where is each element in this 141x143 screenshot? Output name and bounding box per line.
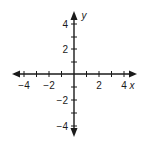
x-tick-label: 4 (121, 80, 127, 91)
y-tick-label: 4 (62, 19, 68, 30)
x-tick-label: 2 (96, 80, 102, 91)
x-axis-label: x (129, 80, 136, 91)
y-tick-label: 2 (62, 44, 68, 55)
y-axis-label: y (81, 10, 88, 21)
y-axis-down-arrow-icon (71, 128, 78, 137)
y-axis-up-arrow-icon (71, 11, 78, 20)
y-tick-label: −4 (57, 121, 69, 132)
x-axis-right-arrow-icon (129, 71, 137, 78)
x-axis-left-arrow-icon (12, 71, 20, 78)
x-tick-label: −4 (18, 80, 30, 91)
coordinate-plane: −4 −2 2 4 x 4 2 −2 −4 y (0, 0, 141, 143)
x-tick-label: −2 (43, 80, 55, 91)
y-tick-label: −2 (57, 95, 69, 106)
